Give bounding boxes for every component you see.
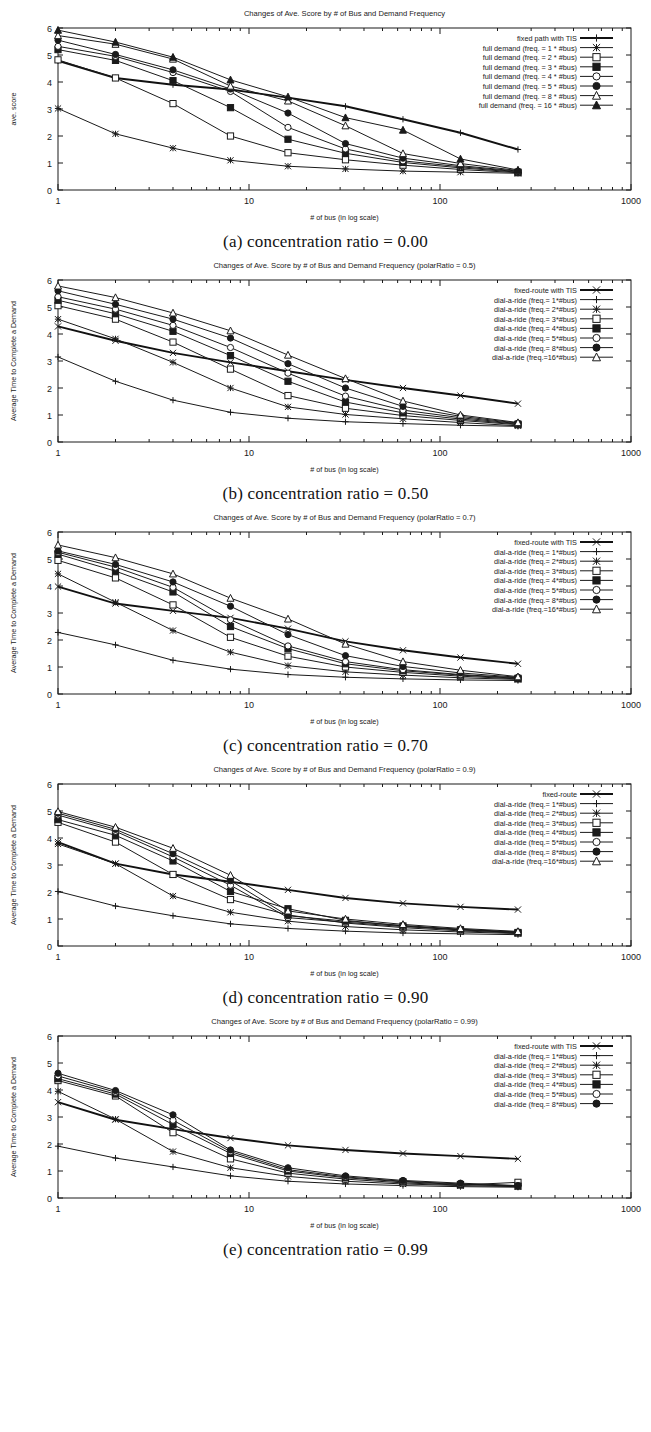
series-6: [55, 548, 521, 681]
y-tick-label: 0: [47, 1194, 52, 1204]
y-tick-label: 5: [47, 1059, 52, 1069]
legend-label: dial-a-ride (freq.= 5*#bus): [494, 586, 577, 595]
legend-label: dial-a-ride (freq.= 8*#bus): [494, 596, 577, 605]
y-tick-label: 4: [47, 78, 52, 88]
legend-label: full demand (freq. = 3 * #bus): [483, 63, 577, 72]
x-tick-label: 1: [55, 448, 60, 458]
legend-label: dial-a-ride (freq.= 8*#bus): [494, 344, 577, 353]
legend-label: full demand (freq. = 8 * #bus): [483, 92, 577, 101]
chart-title: Changes of Ave. Score by # of Bus and De…: [213, 261, 476, 270]
legend-label: dial-a-ride (freq.= 1*#bus): [494, 296, 577, 305]
y-tick-label: 2: [47, 888, 52, 898]
x-axis-label: # of bus (in log scale): [310, 465, 378, 474]
legend-label: dial-a-ride (freq.= 3*#bus): [494, 1071, 577, 1080]
figure-caption-c: (c) concentration ratio = 0.70: [0, 736, 651, 756]
chart-canvas: Changes of Ave. Score by # of Bus and De…: [0, 504, 651, 736]
figure-caption-d: (d) concentration ratio = 0.90: [0, 988, 651, 1008]
y-tick-label: 3: [47, 357, 52, 367]
x-tick-label: 100: [432, 952, 447, 962]
legend-label: dial-a-ride (freq.= 4*#bus): [494, 576, 577, 585]
legend-label: fixed-route with TIS: [514, 286, 577, 295]
y-tick-label: 4: [47, 1086, 52, 1096]
x-tick-label: 1: [55, 196, 60, 206]
y-tick-label: 5: [47, 807, 52, 817]
legend-label: dial-a-ride (freq.= 2*#bus): [494, 305, 577, 314]
y-tick-label: 3: [47, 609, 52, 619]
x-tick-label: 1000: [621, 1204, 641, 1214]
legend-label: fixed-route: [543, 790, 577, 799]
series-group: [55, 282, 522, 429]
legend-label: dial-a-ride (freq.= 1*#bus): [494, 1052, 577, 1061]
y-tick-label: 3: [47, 1113, 52, 1123]
legend-label: dial-a-ride (freq.= 1*#bus): [494, 548, 577, 557]
y-tick-label: 1: [47, 1167, 52, 1177]
figure-page: Changes of Ave. Score by # of Bus and De…: [0, 0, 651, 1432]
chart-canvas: Changes of Ave. Score by # of Bus and De…: [0, 252, 651, 484]
legend: fixed-route with TISdial-a-ride (freq.= …: [494, 1042, 613, 1109]
x-tick-label: 1000: [621, 952, 641, 962]
legend-label: dial-a-ride (freq.= 2*#bus): [494, 557, 577, 566]
x-axis-label: # of bus (in log scale): [310, 969, 378, 978]
x-tick-label: 10: [244, 196, 254, 206]
y-tick-label: 2: [47, 636, 52, 646]
y-tick-label: 1: [47, 411, 52, 421]
x-axis-label: # of bus (in log scale): [310, 213, 378, 222]
legend: fixed-routedial-a-ride (freq.= 1*#bus)di…: [492, 790, 613, 866]
series-group: [55, 541, 522, 683]
y-tick-label: 2: [47, 1140, 52, 1150]
x-tick-label: 100: [432, 196, 447, 206]
chart-canvas: Changes of Ave. Score by # of Bus and De…: [0, 756, 651, 988]
y-tick-label: 0: [47, 942, 52, 952]
y-tick-label: 0: [47, 186, 52, 196]
legend-label: dial-a-ride (freq.= 4*#bus): [494, 324, 577, 333]
series-6: [55, 1070, 521, 1189]
legend-label: dial-a-ride (freq.= 3*#bus): [494, 819, 577, 828]
chart-d: Changes of Ave. Score by # of Bus and De…: [0, 756, 651, 988]
y-tick-label: 2: [47, 384, 52, 394]
chart-canvas: Changes of Ave. Score by # of Bus and De…: [0, 0, 651, 232]
chart-canvas: Changes of Ave. Score by # of Bus and De…: [0, 1008, 651, 1240]
x-tick-label: 1: [55, 700, 60, 710]
legend-label: dial-a-ride (freq.= 8*#bus): [494, 848, 577, 857]
series-2: [55, 841, 521, 937]
legend: fixed-route with TISdial-a-ride (freq.= …: [492, 286, 613, 362]
legend-label: dial-a-ride (freq.= 5*#bus): [494, 1090, 577, 1099]
x-tick-label: 10: [244, 448, 254, 458]
legend-label: full demand (freq. = 16 * #bus): [479, 101, 577, 110]
figure-caption-a: (a) concentration ratio = 0.00: [0, 232, 651, 252]
legend-label: dial-a-ride (freq.= 3*#bus): [494, 567, 577, 576]
x-tick-label: 1000: [621, 700, 641, 710]
y-tick-label: 0: [47, 690, 52, 700]
series-group: [55, 26, 522, 176]
x-tick-label: 100: [432, 1204, 447, 1214]
legend-label: dial-a-ride (freq.=16*#bus): [492, 353, 577, 362]
legend-label: dial-a-ride (freq.= 1*#bus): [494, 800, 577, 809]
x-tick-label: 10: [244, 700, 254, 710]
series-group: [55, 808, 522, 938]
legend-label: full demand (freq. = 5 * #bus): [483, 82, 577, 91]
y-tick-label: 1: [47, 663, 52, 673]
y-tick-label: 4: [47, 330, 52, 340]
legend-label: fixed path with TIS: [517, 34, 577, 43]
chart-title: Changes of Ave. Score by # of Bus and De…: [244, 9, 445, 18]
x-tick-label: 100: [432, 700, 447, 710]
legend-label: dial-a-ride (freq.= 2*#bus): [494, 809, 577, 818]
y-axis-label: ave. score: [9, 92, 18, 125]
legend-label: full demand (freq. = 1 * #bus): [483, 44, 577, 53]
x-tick-label: 100: [432, 448, 447, 458]
legend-label: full demand (freq. = 2 * #bus): [483, 53, 577, 62]
x-axis-label: # of bus (in log scale): [310, 1221, 378, 1230]
chart-title: Changes of Ave. Score by # of Bus and De…: [211, 1017, 478, 1026]
figure-c: Changes of Ave. Score by # of Bus and De…: [0, 504, 651, 756]
y-tick-label: 0: [47, 438, 52, 448]
y-tick-label: 6: [47, 1032, 52, 1042]
figure-e: Changes of Ave. Score by # of Bus and De…: [0, 1008, 651, 1260]
y-tick-label: 1: [47, 159, 52, 169]
y-axis-label: Average Time to Complete a Demand: [9, 1057, 18, 1177]
y-axis-label: Average Time to Complete a Demand: [9, 553, 18, 673]
legend: fixed-route with TISdial-a-ride (freq.= …: [492, 538, 613, 614]
legend-label: dial-a-ride (freq.=16*#bus): [492, 605, 577, 614]
x-tick-label: 10: [244, 952, 254, 962]
y-tick-label: 4: [47, 582, 52, 592]
legend-label: dial-a-ride (freq.=16*#bus): [492, 857, 577, 866]
